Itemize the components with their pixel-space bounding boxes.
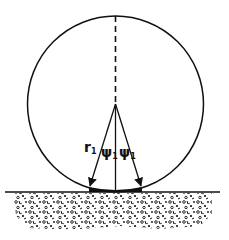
soil-texture xyxy=(8,193,212,230)
radius-label: r1 xyxy=(84,139,97,156)
wheel-soil-contact-diagram: r1 ψ1 ψ1 xyxy=(0,0,229,240)
angle-right-label: ψ1 xyxy=(119,144,136,161)
